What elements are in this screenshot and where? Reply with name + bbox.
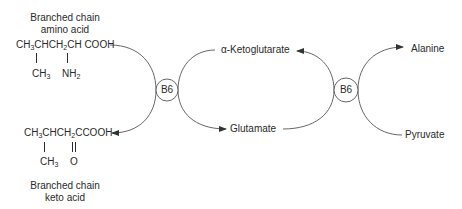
pyruvate-label: Pyruvate	[405, 129, 444, 141]
keto-acid-label-line1: Branched chain	[20, 180, 110, 192]
keto-double-bond-a	[72, 142, 73, 152]
sub-index: 2	[76, 73, 80, 80]
amino-formula-part: CHCH	[34, 39, 63, 50]
keto-formula-part: CCOOH	[75, 127, 112, 138]
alpha-ketoglutarate-label: α-Ketoglutarate	[221, 44, 290, 56]
arc-amino-to-keto	[110, 45, 156, 133]
arc-akg-to-glutamate	[178, 50, 226, 129]
amino-acid-label: Branched chain amino acid	[20, 12, 110, 36]
amino-acid-formula: CH3CHCH2CH COOH	[16, 39, 114, 51]
keto-acid-label-line2: keto acid	[20, 192, 110, 204]
amino-acid-label-line1: Branched chain	[20, 12, 110, 24]
arc-pyruvate-to-alanine	[358, 47, 403, 135]
b6-label-left: B6	[156, 84, 178, 95]
sub-text: CH	[32, 68, 46, 79]
amino-acid-label-line2: amino acid	[20, 24, 110, 36]
amino-substituent-nh2: NH2	[62, 68, 80, 80]
keto-bond-1	[44, 142, 45, 152]
keto-substituent-ch3: CH3	[40, 156, 58, 168]
glutamate-label: Glutamate	[230, 123, 276, 135]
amino-formula-part: CH	[16, 39, 30, 50]
arc-glutamate-to-akg	[283, 51, 334, 129]
b6-label-right: B6	[334, 84, 358, 95]
amino-formula-part: CH COOH	[67, 39, 114, 50]
keto-formula-part: CHCH	[42, 127, 71, 138]
keto-substituent-o: O	[70, 156, 78, 168]
keto-formula-part: CH	[24, 127, 38, 138]
sub-index: 3	[46, 73, 50, 80]
alanine-label: Alanine	[411, 43, 444, 55]
amino-substituent-ch3: CH3	[32, 68, 50, 80]
sub-text: NH	[62, 68, 76, 79]
keto-double-bond-b	[75, 142, 76, 152]
sub-text: CH	[40, 156, 54, 167]
keto-acid-label: Branched chain keto acid	[20, 180, 110, 204]
amino-bond-2	[67, 53, 68, 63]
sub-index: 3	[54, 161, 58, 168]
amino-bond-1	[36, 53, 37, 63]
keto-acid-formula: CH3CHCH2CCOOH	[24, 127, 112, 139]
